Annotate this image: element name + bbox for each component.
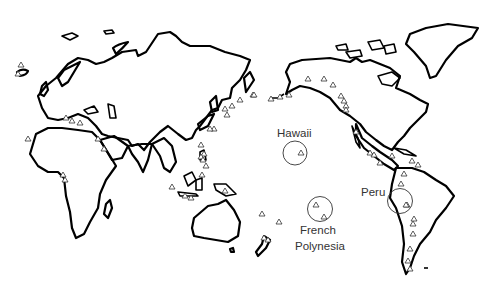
site-marker — [259, 211, 265, 216]
hawaii-circle — [283, 141, 307, 165]
site-marker — [222, 188, 228, 193]
site-marker — [15, 71, 21, 76]
site-marker — [401, 171, 407, 176]
site-marker — [411, 216, 417, 221]
site-marker — [237, 97, 243, 102]
site-marker — [69, 118, 75, 123]
site-marker-french-polynesia — [313, 202, 319, 207]
site-marker — [222, 106, 228, 111]
region-labels: Hawaii French Polynesia Peru — [277, 127, 385, 252]
site-marker — [321, 76, 327, 81]
site-marker — [77, 120, 83, 125]
site-marker — [341, 98, 347, 103]
label-french-polynesia-line2: Polynesia — [295, 240, 345, 252]
site-marker-hawaii — [298, 150, 304, 155]
label-french-polynesia-line1: French — [300, 224, 336, 236]
site-marker — [330, 82, 336, 87]
label-hawaii: Hawaii — [277, 127, 312, 139]
site-marker — [407, 246, 413, 251]
site-marker — [169, 184, 175, 189]
site-marker — [398, 181, 404, 186]
site-marker — [25, 136, 31, 141]
coastlines — [17, 24, 478, 274]
site-marker — [276, 219, 282, 224]
site-marker — [229, 103, 235, 108]
label-peru: Peru — [361, 186, 385, 198]
world-map: Hawaii French Polynesia Peru — [0, 0, 495, 287]
french-polynesia-circle — [308, 197, 333, 222]
site-marker — [198, 142, 204, 147]
site-marker — [199, 172, 205, 177]
site-marker — [410, 221, 416, 226]
site-marker — [338, 93, 344, 98]
site-marker — [389, 153, 395, 158]
site-marker — [224, 112, 230, 117]
site-marker — [405, 258, 411, 263]
site-marker — [305, 76, 311, 81]
site-marker-french-polynesia — [321, 214, 327, 219]
site-marker — [203, 163, 209, 168]
site-marker — [407, 266, 413, 271]
site-marker — [18, 62, 24, 67]
site-marker — [415, 162, 421, 167]
site-marker — [410, 231, 416, 236]
site-marker — [409, 158, 415, 163]
